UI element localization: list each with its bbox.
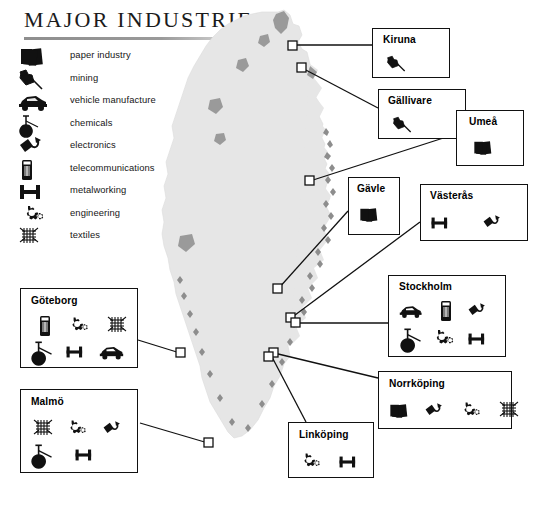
- city-industry-icons: [299, 449, 367, 475]
- marker-kiruna[interactable]: [288, 41, 297, 50]
- legend-label: textiles: [70, 229, 100, 240]
- legend-label: telecommunications: [70, 162, 155, 173]
- engineering-icon: [459, 398, 489, 424]
- city-name: Västerås: [430, 190, 473, 201]
- textiles-icon: [103, 313, 133, 339]
- chemicals-icon: [29, 442, 59, 468]
- city-name: Umeå: [469, 116, 497, 127]
- marker-gavle[interactable]: [273, 284, 282, 293]
- engineering-icon: [299, 449, 329, 475]
- chemicals-icon: [29, 339, 59, 365]
- city-industry-icons: [385, 51, 415, 77]
- chemicals-icon: [18, 114, 54, 136]
- city-industry-icons: [471, 135, 501, 161]
- city-name: Gävle: [357, 183, 385, 194]
- leader-norrkoping: [274, 353, 378, 378]
- engineering-icon: [18, 204, 54, 226]
- marker-linkoping[interactable]: [264, 352, 273, 361]
- vehicle-manufacture-icon: [398, 298, 428, 324]
- marker-goteborg[interactable]: [176, 348, 185, 357]
- city-name: Norrköping: [389, 378, 445, 389]
- legend-item-metalworking: metalworking: [18, 181, 193, 204]
- city-industry-icons-row1: [398, 298, 496, 324]
- city-box-umea[interactable]: Umeå: [456, 110, 524, 166]
- leader-malmo: [140, 423, 208, 443]
- paper-industry-icon: [387, 398, 417, 424]
- electronics-icon: [481, 210, 511, 236]
- mining-icon: [391, 112, 421, 138]
- legend-label: mining: [70, 72, 98, 83]
- legend-item-paper-industry: paper industry: [18, 46, 193, 69]
- telecommunications-icon: [18, 159, 54, 181]
- legend-item-engineering: engineering: [18, 204, 193, 227]
- leader-goteborg: [138, 340, 180, 353]
- legend-label: paper industry: [70, 49, 131, 60]
- legend-label: engineering: [70, 207, 120, 218]
- city-box-stockholm[interactable]: Stockholm: [388, 275, 506, 357]
- paper-industry-icon: [357, 202, 387, 228]
- city-box-gallivare[interactable]: Gällivare: [378, 89, 466, 139]
- city-industry-icons-row2: [29, 442, 103, 468]
- legend-item-telecommunications: telecommunications: [18, 159, 193, 182]
- legend-item-mining: mining: [18, 69, 193, 92]
- leader-gavle: [278, 211, 348, 289]
- legend-item-textiles: textiles: [18, 226, 193, 249]
- mining-icon: [18, 69, 54, 91]
- marker-gallivare[interactable]: [297, 63, 306, 72]
- telecommunications-icon: [31, 313, 61, 339]
- electronics-icon: [101, 416, 131, 442]
- city-industry-icons: [387, 398, 525, 424]
- city-box-gavle[interactable]: Gävle: [348, 177, 400, 235]
- city-name: Stockholm: [399, 281, 452, 292]
- city-industry-icons-row1: [31, 313, 133, 339]
- leader-umea: [310, 132, 462, 181]
- city-box-vasteras[interactable]: Västerås: [420, 184, 528, 241]
- leader-linkoping: [272, 357, 306, 422]
- city-box-linkoping[interactable]: Linköping: [288, 422, 374, 478]
- legend-label: electronics: [70, 139, 116, 150]
- legend-label: chemicals: [70, 117, 113, 128]
- marker-umea[interactable]: [305, 176, 314, 185]
- legend-item-vehicle-manufacture: vehicle manufacture: [18, 91, 193, 114]
- telecommunications-icon: [432, 298, 462, 324]
- city-name: Malmö: [31, 396, 64, 407]
- metalworking-icon: [64, 339, 94, 365]
- legend-item-electronics: electronics: [18, 136, 193, 159]
- city-industry-icons: [391, 112, 421, 138]
- textiles-icon: [495, 398, 525, 424]
- legend-item-chemicals: chemicals: [18, 114, 193, 137]
- city-name: Göteborg: [31, 295, 78, 306]
- mining-icon: [385, 51, 415, 77]
- city-industry-icons-row2: [398, 326, 496, 352]
- metalworking-icon: [73, 442, 103, 468]
- marker-stockholm[interactable]: [291, 318, 300, 327]
- metalworking-icon: [18, 181, 54, 203]
- marker-malmo[interactable]: [204, 438, 213, 447]
- vehicle-manufacture-icon: [18, 91, 54, 113]
- engineering-icon: [432, 326, 462, 352]
- engineering-icon: [65, 416, 95, 442]
- engineering-icon: [67, 313, 97, 339]
- city-box-norrkoping[interactable]: Norrköping: [378, 371, 512, 429]
- chemicals-icon: [398, 326, 428, 352]
- city-industry-icons-row2: [29, 339, 129, 365]
- city-name: Kiruna: [383, 34, 416, 45]
- legend-label: vehicle manufacture: [70, 94, 156, 105]
- city-name: Linköping: [299, 429, 349, 440]
- metalworking-icon: [429, 210, 459, 236]
- vehicle-manufacture-icon: [99, 339, 129, 365]
- paper-industry-icon: [471, 135, 501, 161]
- city-box-goteborg[interactable]: Göteborg: [20, 288, 138, 368]
- electronics-icon: [466, 298, 496, 324]
- legend-label: metalworking: [70, 184, 126, 195]
- city-name: Gällivare: [388, 95, 432, 106]
- city-industry-icons: [357, 202, 387, 228]
- textiles-icon: [18, 226, 54, 248]
- metalworking-icon: [466, 326, 496, 352]
- city-industry-icons: [429, 210, 511, 236]
- city-box-kiruna[interactable]: Kiruna: [372, 28, 450, 78]
- city-box-malmo[interactable]: Malmö: [20, 389, 138, 473]
- city-industry-icons-row1: [29, 416, 131, 442]
- electronics-icon: [423, 398, 453, 424]
- leader-gallivare: [302, 68, 378, 108]
